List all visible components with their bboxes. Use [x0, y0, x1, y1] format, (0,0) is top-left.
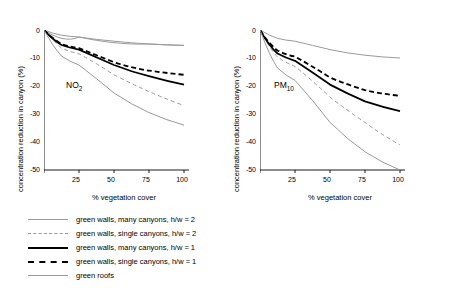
legend-key-dashed-black-thick	[28, 256, 68, 266]
legend-label: green walls, single canyons, h/w = 2	[76, 229, 196, 238]
y-tick-label: -50	[234, 166, 256, 173]
y-tick-label: -40	[234, 138, 256, 145]
series-line-gw-many-hw2	[260, 30, 400, 58]
legend-key-solid-gray-thin	[28, 214, 68, 224]
panel-label-pm10: PM10	[274, 80, 294, 92]
x-tick-label: 50	[104, 176, 118, 183]
y-tick-label: -30	[234, 110, 256, 117]
plot-area-no2	[44, 30, 192, 175]
panel-label-text: NO	[66, 80, 79, 90]
series-line-gw-many-hw1	[44, 30, 184, 85]
x-tick-label: 100	[389, 176, 407, 183]
legend-label: green walls, many canyons, h/w = 2	[76, 215, 195, 224]
series-line-green-roofs	[260, 30, 400, 170]
x-tick-label: 75	[139, 176, 153, 183]
x-tick-label: 25	[69, 176, 83, 183]
panel-label-text: PM	[274, 80, 287, 90]
legend-label: green roofs	[76, 271, 114, 280]
legend-label: green walls, many canyons, h/w = 1	[76, 243, 195, 252]
y-tick-label: -30	[18, 110, 40, 117]
y-tick-label: -10	[18, 54, 40, 61]
x-tick-label: 75	[355, 176, 369, 183]
legend-key-solid-black-thick	[28, 242, 68, 252]
legend-key-solid-gray-thin-roofs	[28, 270, 68, 280]
x-axis-title-right: % vegetation cover	[290, 193, 390, 202]
y-tick-label: -10	[234, 54, 256, 61]
legend-key-dashed-gray-thin	[28, 228, 68, 238]
x-axis-title-left: % vegetation cover	[74, 193, 174, 202]
legend-item: green walls, single canyons, h/w = 2	[28, 226, 328, 240]
x-tick-label: 50	[320, 176, 334, 183]
legend-item: green walls, many canyons, h/w = 2	[28, 212, 328, 226]
y-tick-label: 0	[18, 27, 40, 34]
series-line-gw-many-hw2	[44, 30, 184, 45]
series-line-gw-single-hw1	[44, 30, 184, 75]
plot-area-pm10	[260, 30, 408, 175]
legend-item: green walls, many canyons, h/w = 1	[28, 240, 328, 254]
y-tick-label: -40	[18, 138, 40, 145]
panel-label-subscript: 2	[79, 85, 83, 92]
legend: green walls, many canyons, h/w = 2 green…	[28, 212, 328, 282]
figure-root: concentration reduction in canyon (%) 0 …	[0, 0, 451, 288]
legend-item: green walls, single canyons, h/w = 1	[28, 254, 328, 268]
panel-label-subscript: 10	[287, 85, 294, 92]
y-tick-label: 0	[234, 27, 256, 34]
y-tick-label: -20	[234, 82, 256, 89]
x-tick-label: 25	[285, 176, 299, 183]
y-tick-label: -50	[18, 166, 40, 173]
legend-label: green walls, single canyons, h/w = 1	[76, 257, 196, 266]
x-tick-label: 100	[173, 176, 191, 183]
legend-item: green roofs	[28, 268, 328, 282]
panel-label-no2: NO2	[66, 80, 82, 92]
y-tick-label: -20	[18, 82, 40, 89]
